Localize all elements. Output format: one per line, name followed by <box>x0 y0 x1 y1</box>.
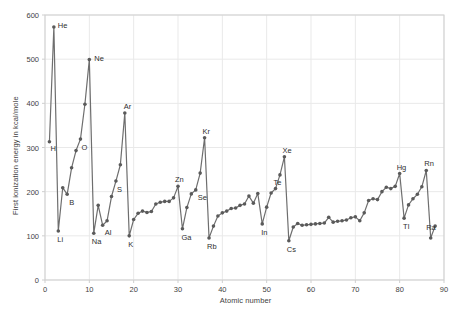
data-point <box>362 211 366 215</box>
data-point <box>136 212 140 216</box>
element-label-hg: Hg <box>397 163 407 172</box>
data-point <box>74 149 78 153</box>
data-point <box>336 219 340 223</box>
element-label-ar: Ar <box>124 102 132 111</box>
element-label-rb: Rb <box>207 242 217 251</box>
data-point <box>376 198 380 202</box>
element-label-h: H <box>50 144 55 153</box>
data-point <box>398 172 402 176</box>
data-point <box>158 200 162 204</box>
grid-lines <box>45 15 444 280</box>
element-label-he: He <box>58 21 68 30</box>
data-point <box>57 229 61 233</box>
data-point <box>70 166 74 170</box>
data-point <box>380 190 384 194</box>
data-point <box>305 223 309 227</box>
element-label-kr: Kr <box>203 127 211 136</box>
x-tick-label: 50 <box>262 285 270 294</box>
x-axis-title: Atomic number <box>20 296 451 305</box>
data-point <box>101 223 105 227</box>
data-point <box>252 201 256 205</box>
x-tick-label: 80 <box>395 285 403 294</box>
data-point <box>96 204 100 208</box>
data-point <box>291 225 295 229</box>
element-label-o: O <box>81 143 87 152</box>
data-point <box>216 214 220 218</box>
data-point <box>314 222 318 226</box>
x-tick-label: 60 <box>307 285 315 294</box>
data-point <box>65 193 69 197</box>
data-point <box>229 207 233 211</box>
data-point <box>331 220 335 224</box>
x-tick-label: 90 <box>440 285 448 294</box>
element-label-ga: Ga <box>181 233 192 242</box>
element-label-s: S <box>117 185 122 194</box>
data-point <box>167 200 171 204</box>
data-point <box>389 187 393 191</box>
y-axis-title: First ionization energy in kcal/mole <box>11 96 20 215</box>
element-label-cs: Cs <box>287 245 296 254</box>
data-point <box>318 222 322 226</box>
x-tick-label: 30 <box>174 285 182 294</box>
element-label-ra: Ra <box>426 223 436 232</box>
data-point <box>203 136 207 140</box>
data-point <box>247 194 251 198</box>
data-point <box>176 185 180 189</box>
data-point <box>323 221 327 225</box>
data-point <box>385 185 389 189</box>
element-label-xe: Xe <box>282 146 291 155</box>
x-tick-label: 20 <box>129 285 137 294</box>
element-label-b: B <box>69 198 74 207</box>
data-point <box>309 223 313 227</box>
data-point <box>234 206 238 210</box>
data-point <box>154 202 158 206</box>
data-point <box>358 219 362 223</box>
data-point <box>349 216 353 220</box>
data-point <box>207 236 211 240</box>
data-point <box>243 202 247 206</box>
element-label-rn: Rn <box>424 159 434 168</box>
chart-figure: 01020304050607080900100200300400500600 H… <box>0 0 451 314</box>
data-point <box>287 239 291 243</box>
data-point <box>411 197 415 201</box>
element-label-al: Al <box>105 228 112 237</box>
data-point <box>198 171 202 175</box>
data-point <box>283 155 287 159</box>
data-point <box>114 179 118 183</box>
data-point <box>52 25 56 29</box>
data-point <box>132 218 136 222</box>
data-point <box>429 236 433 240</box>
element-label-in: In <box>261 228 267 237</box>
data-point <box>105 219 109 223</box>
data-point <box>61 186 65 190</box>
element-label-k: K <box>128 240 133 249</box>
data-point <box>83 102 87 106</box>
data-point <box>274 187 278 191</box>
data-point <box>340 219 344 223</box>
data-point <box>163 200 167 204</box>
data-point <box>420 185 424 189</box>
y-tick-label: 600 <box>26 11 39 20</box>
element-label-na: Na <box>92 237 102 246</box>
data-point <box>402 216 406 220</box>
data-point <box>127 234 131 238</box>
element-label-tl: Tl <box>403 222 410 231</box>
data-point <box>354 215 358 219</box>
x-tick-label: 70 <box>351 285 359 294</box>
data-point <box>212 224 216 228</box>
data-point <box>225 209 229 213</box>
data-point <box>265 205 269 209</box>
data-point <box>296 222 300 226</box>
x-tick-label: 0 <box>43 285 47 294</box>
data-point <box>88 58 92 62</box>
y-tick-label: 100 <box>26 232 39 241</box>
data-point <box>393 185 397 189</box>
data-point <box>79 137 83 141</box>
data-point <box>221 211 225 215</box>
data-point <box>145 211 149 215</box>
element-label-li: Li <box>57 235 63 244</box>
data-point <box>150 210 154 214</box>
data-point <box>345 218 349 222</box>
data-point <box>123 111 127 115</box>
data-point <box>260 222 264 226</box>
